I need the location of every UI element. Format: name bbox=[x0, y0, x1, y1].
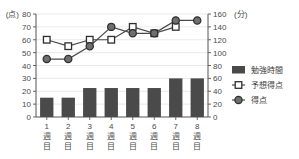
legend-label-3: 得点 bbox=[251, 95, 267, 105]
left-axis-tick-label: 30 bbox=[22, 74, 31, 83]
left-axis-tick-label: 10 bbox=[22, 100, 31, 109]
bar-7 bbox=[169, 78, 182, 117]
marker-filled-circle bbox=[151, 30, 158, 37]
right-axis-tick-label: 0 bbox=[213, 113, 218, 122]
bar-3 bbox=[83, 88, 96, 117]
left-axis-tick-label: 50 bbox=[22, 49, 31, 58]
right-axis-tick-label: 120 bbox=[213, 36, 227, 45]
x-axis-category-label: 2週目 bbox=[64, 122, 72, 151]
right-axis-tick-label: 20 bbox=[213, 100, 222, 109]
marker-filled-circle bbox=[129, 30, 136, 37]
bar-2 bbox=[62, 98, 75, 117]
bar-6 bbox=[148, 88, 161, 117]
legend-label-2: 予想得点 bbox=[251, 80, 283, 90]
bar-1 bbox=[40, 98, 53, 117]
left-axis-unit-label: (点) bbox=[6, 10, 20, 19]
left-axis-tick-label: 0 bbox=[27, 113, 32, 122]
right-axis-tick-label: 60 bbox=[213, 74, 222, 83]
x-axis-category-label: 1週目 bbox=[43, 122, 51, 151]
marker-filled-circle bbox=[194, 17, 201, 24]
marker-filled-circle bbox=[86, 43, 93, 50]
marker-filled-circle bbox=[172, 17, 179, 24]
right-axis-unit-label: (分) bbox=[234, 10, 248, 19]
left-axis-tick-label: 40 bbox=[22, 62, 31, 71]
bar-4 bbox=[105, 88, 118, 117]
bar-5 bbox=[126, 88, 139, 117]
legend-marker-filled-circle bbox=[235, 96, 242, 103]
x-axis-category-label: 4週目 bbox=[107, 122, 115, 151]
marker-filled-circle bbox=[108, 23, 115, 30]
left-axis-tick-label: 60 bbox=[22, 36, 31, 45]
right-axis-tick-label: 80 bbox=[213, 62, 222, 71]
study-progress-chart: 01020304050607080(点)02040608010012014016… bbox=[0, 0, 299, 159]
marker-filled-circle bbox=[65, 55, 72, 62]
legend-swatch-bar bbox=[232, 66, 245, 74]
marker-open-square bbox=[43, 36, 50, 43]
x-axis-category-label: 6週目 bbox=[150, 122, 158, 151]
marker-filled-circle bbox=[43, 55, 50, 62]
right-axis-tick-label: 140 bbox=[213, 23, 227, 32]
x-axis-category-label: 3週目 bbox=[86, 122, 94, 151]
legend-marker-open-square bbox=[235, 82, 242, 89]
legend-label-1: 勉強時間 bbox=[251, 65, 283, 75]
right-axis-tick-label: 160 bbox=[213, 10, 227, 19]
chart-canvas: 01020304050607080(点)02040608010012014016… bbox=[0, 0, 299, 159]
right-axis-tick-label: 100 bbox=[213, 49, 227, 58]
left-axis-tick-label: 80 bbox=[22, 10, 31, 19]
x-axis-category-label: 8週目 bbox=[193, 122, 201, 151]
left-axis-tick-label: 70 bbox=[22, 23, 31, 32]
bar-8 bbox=[191, 78, 204, 117]
marker-open-square bbox=[108, 36, 115, 43]
left-axis-tick-label: 20 bbox=[22, 87, 31, 96]
right-axis-tick-label: 40 bbox=[213, 87, 222, 96]
x-axis-category-label: 5週目 bbox=[129, 122, 137, 151]
x-axis-category-label: 7週目 bbox=[172, 122, 180, 151]
marker-open-square bbox=[65, 43, 72, 50]
